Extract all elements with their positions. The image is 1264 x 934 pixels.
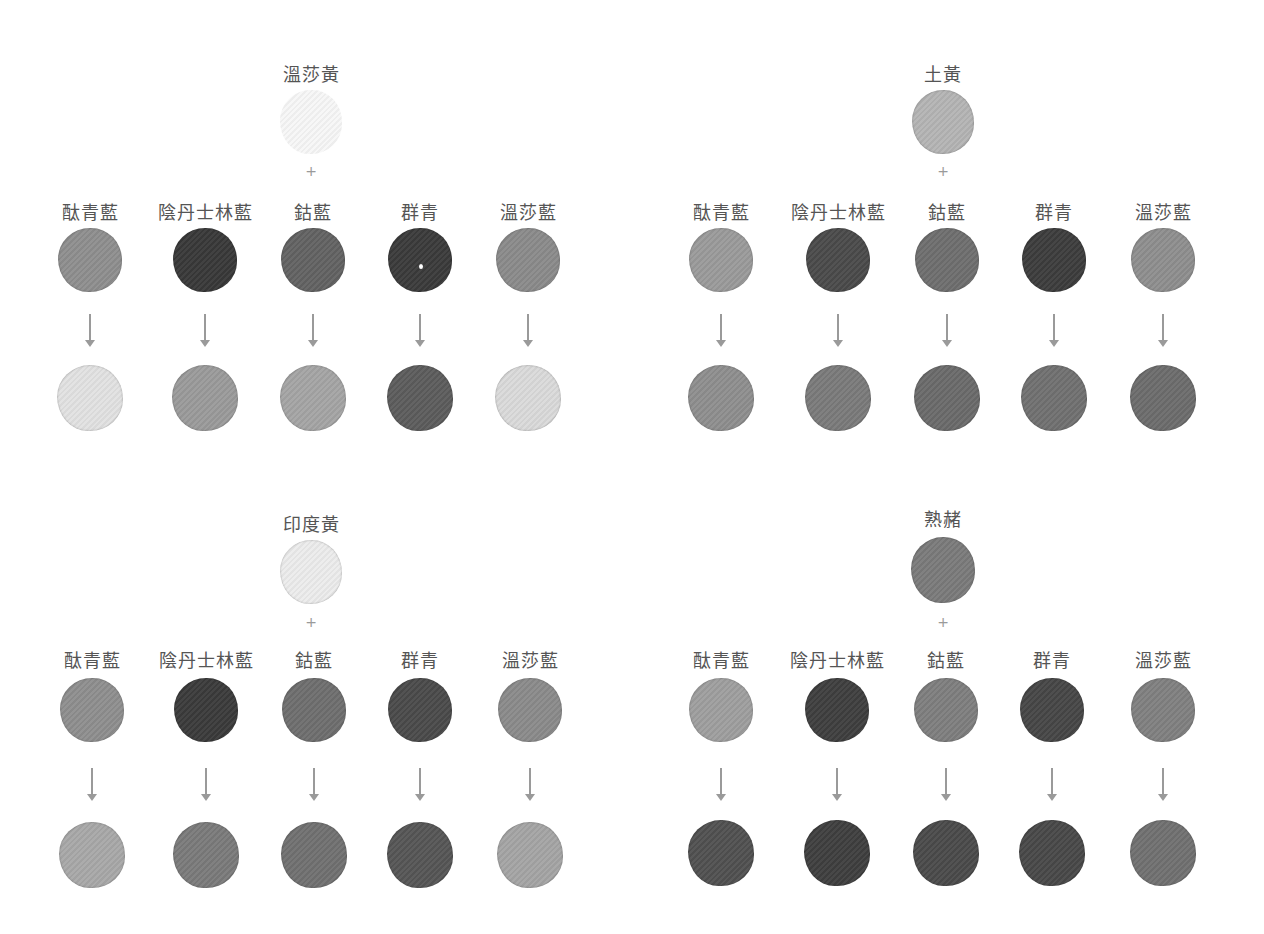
mix-pigment-label: 群青	[1035, 198, 1073, 224]
mixed-result-swatch	[805, 365, 871, 431]
source-pigment-swatch	[174, 678, 238, 742]
base-pigment-swatch	[911, 537, 975, 603]
mixed-result-swatch	[1019, 820, 1085, 886]
source-pigment-swatch	[1020, 678, 1084, 742]
mixed-result-swatch	[281, 822, 347, 888]
arrow-down-icon	[831, 768, 843, 802]
base-pigment-title: 印度黃	[283, 510, 340, 536]
mix-pigment-label: 群青	[401, 646, 439, 672]
source-pigment-swatch	[915, 228, 979, 292]
mix-pigment-label: 陰丹士林藍	[790, 646, 885, 672]
base-pigment-title: 熟赭	[924, 505, 962, 531]
mixed-result-swatch	[913, 820, 979, 886]
arrow-down-icon	[524, 768, 536, 802]
mix-pigment-label: 溫莎藍	[1135, 646, 1192, 672]
base-pigment-swatch	[280, 540, 342, 604]
base-pigment-title: 溫莎黃	[283, 60, 340, 86]
mix-pigment-label: 酞青藍	[64, 646, 121, 672]
base-pigment-title: 土黃	[924, 60, 962, 86]
arrow-down-icon	[200, 768, 212, 802]
arrow-down-icon	[941, 314, 953, 348]
mix-pigment-label: 鈷藍	[294, 198, 332, 224]
mix-pigment-label: 溫莎藍	[500, 198, 557, 224]
arrow-down-icon	[199, 314, 211, 348]
plus-icon: +	[937, 163, 949, 179]
mixed-result-swatch	[804, 820, 870, 886]
arrow-down-icon	[522, 314, 534, 348]
arrow-down-icon	[1048, 314, 1060, 348]
mix-pigment-label: 群青	[401, 198, 439, 224]
source-pigment-swatch	[173, 228, 237, 292]
mixed-result-swatch	[57, 365, 123, 431]
mixed-result-swatch	[59, 822, 125, 888]
mix-pigment-label: 酞青藍	[693, 198, 750, 224]
mix-pigment-label: 酞青藍	[693, 646, 750, 672]
arrow-down-icon	[1157, 314, 1169, 348]
mixed-result-swatch	[688, 365, 754, 431]
mix-pigment-label: 溫莎藍	[502, 646, 559, 672]
source-pigment-swatch	[1131, 228, 1195, 292]
paint-speck	[419, 264, 423, 269]
source-pigment-swatch	[689, 678, 753, 742]
arrow-down-icon	[1046, 768, 1058, 802]
mixed-result-swatch	[1130, 365, 1196, 431]
mixed-result-swatch	[387, 822, 453, 888]
source-pigment-swatch	[689, 228, 753, 292]
arrow-down-icon	[1157, 768, 1169, 802]
source-pigment-swatch	[806, 228, 870, 292]
mixed-result-swatch	[387, 365, 453, 431]
mixed-result-swatch	[1130, 820, 1196, 886]
mix-pigment-label: 鈷藍	[295, 646, 333, 672]
arrow-down-icon	[84, 314, 96, 348]
arrow-down-icon	[414, 768, 426, 802]
base-pigment-swatch	[280, 90, 342, 154]
plus-icon: +	[937, 614, 949, 630]
arrow-down-icon	[414, 314, 426, 348]
plus-icon: +	[305, 163, 317, 179]
mix-pigment-label: 陰丹士林藍	[158, 198, 253, 224]
source-pigment-swatch	[58, 228, 122, 292]
source-pigment-swatch	[388, 678, 452, 742]
mix-pigment-label: 群青	[1033, 646, 1071, 672]
mixed-result-swatch	[1021, 365, 1087, 431]
source-pigment-swatch	[498, 678, 562, 742]
mixed-result-swatch	[495, 365, 561, 431]
mix-pigment-label: 鈷藍	[927, 646, 965, 672]
arrow-down-icon	[308, 768, 320, 802]
source-pigment-swatch	[914, 678, 978, 742]
source-pigment-swatch	[282, 678, 346, 742]
arrow-down-icon	[86, 768, 98, 802]
mixed-result-swatch	[280, 365, 346, 431]
mix-pigment-label: 酞青藍	[62, 198, 119, 224]
source-pigment-swatch	[1131, 678, 1195, 742]
mixed-result-swatch	[173, 822, 239, 888]
source-pigment-swatch	[281, 228, 345, 292]
source-pigment-swatch	[60, 678, 124, 742]
source-pigment-swatch	[388, 228, 452, 292]
arrow-down-icon	[715, 768, 727, 802]
mixed-result-swatch	[497, 822, 563, 888]
source-pigment-swatch	[1022, 228, 1086, 292]
base-pigment-swatch	[912, 90, 974, 154]
source-pigment-swatch	[496, 228, 560, 292]
mix-pigment-label: 陰丹士林藍	[791, 198, 886, 224]
arrow-down-icon	[715, 314, 727, 348]
mix-pigment-label: 鈷藍	[928, 198, 966, 224]
arrow-down-icon	[307, 314, 319, 348]
source-pigment-swatch	[805, 678, 869, 742]
mixed-result-swatch	[172, 365, 238, 431]
mix-pigment-label: 溫莎藍	[1135, 198, 1192, 224]
plus-icon: +	[305, 614, 317, 630]
mixed-result-swatch	[914, 365, 980, 431]
mixed-result-swatch	[688, 820, 754, 886]
arrow-down-icon	[940, 768, 952, 802]
arrow-down-icon	[832, 314, 844, 348]
mix-pigment-label: 陰丹士林藍	[159, 646, 254, 672]
